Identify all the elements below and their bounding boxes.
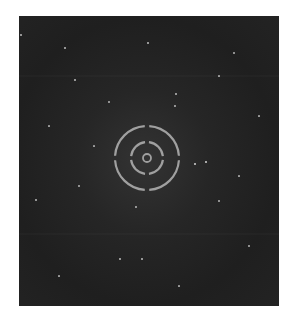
reticle-ring-segment: [149, 126, 179, 156]
reticle-ring-segment: [149, 160, 179, 190]
starfield-image: [19, 16, 279, 306]
reticle-ring-segment: [131, 160, 145, 174]
reticle-ring-segment: [149, 142, 163, 156]
reticle-ring-segment: [115, 160, 145, 190]
reticle-ring-segment: [131, 142, 145, 156]
reticle-center-ring: [143, 154, 151, 162]
target-reticle-icon: [19, 16, 279, 306]
reticle-ring-segment: [149, 160, 163, 174]
reticle-ring-segment: [115, 126, 145, 156]
